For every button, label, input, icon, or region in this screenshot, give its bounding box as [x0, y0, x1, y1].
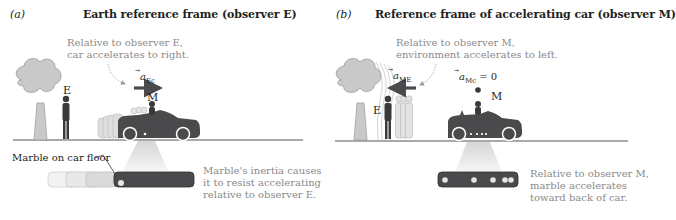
- marble-note-b: Relative to observer M, marble accelerat…: [530, 168, 649, 204]
- vector-a-mc-zero-label: a⃗Mc = 0: [459, 71, 497, 85]
- observer-m-label: M: [147, 91, 158, 104]
- vector-symbol: a⃗: [393, 70, 399, 81]
- dotted-pointer-a: [108, 64, 125, 84]
- vector-a-me-label: a⃗ME: [393, 70, 411, 84]
- vector-a-ec-label: a⃗Ec: [140, 71, 155, 85]
- vector-symbol: a⃗: [459, 71, 465, 82]
- panel-b-note: Relative to observer M, environment acce…: [396, 37, 558, 61]
- person-e-icon-b: [385, 96, 392, 139]
- car-icon-a: [118, 101, 200, 141]
- marble-icon: [118, 180, 124, 186]
- observer-e-label-b: E: [373, 104, 381, 117]
- inertia-note-line-3: relative to observer E.: [203, 189, 321, 201]
- marble-floor-strip-a: [48, 172, 194, 187]
- marble-callout-label: Marble on car floor: [12, 152, 110, 164]
- observer-m-label-b: M: [491, 90, 502, 103]
- panel-a-note-line-1: Relative to observer E,: [67, 37, 189, 49]
- inertia-note-line-2: it to resist accelerating: [203, 177, 321, 189]
- zero-vector-equals: = 0: [479, 71, 497, 82]
- panel-b-label: (b): [336, 8, 352, 21]
- panel-b-note-line-1: Relative to observer M,: [396, 37, 558, 49]
- inertia-note-line-1: Marble's inertia causes: [203, 165, 321, 177]
- tree-icon-b: [336, 59, 381, 140]
- ghost-persons: [396, 96, 413, 138]
- dotted-pointer-b: [420, 64, 436, 85]
- vector-subscript: Ec: [146, 77, 155, 85]
- marble-note-b-line-3: toward back of car.: [530, 192, 649, 204]
- panel-b-title: Reference frame of accelerating car (obs…: [375, 8, 676, 21]
- panel-a-label: (a): [10, 8, 25, 21]
- marble-floor-strip-b: [438, 172, 518, 187]
- tree-icon: [16, 59, 61, 140]
- panel-b-note-line-2: environment accelerates to left.: [396, 49, 558, 61]
- vector-subscript: ME: [399, 76, 411, 84]
- vector-subscript: Mc: [465, 77, 476, 85]
- vector-symbol: a⃗: [140, 71, 146, 82]
- person-e-icon: [63, 96, 70, 139]
- marble-note-b-line-2: marble accelerates: [530, 180, 649, 192]
- panel-a-note-line-2: car accelerates to right.: [67, 49, 189, 61]
- marble-note-b-line-1: Relative to observer M,: [530, 168, 649, 180]
- car-icon-b: [448, 101, 522, 141]
- ghost-passengers: [131, 107, 147, 114]
- panel-a-note: Relative to observer E, car accelerates …: [67, 37, 189, 61]
- panel-a-title: Earth reference frame (observer E): [83, 8, 297, 21]
- observer-e-label: E: [63, 84, 71, 97]
- inertia-note: Marble's inertia causes it to resist acc…: [203, 165, 321, 201]
- zero-vector-dot-icon: [475, 87, 481, 93]
